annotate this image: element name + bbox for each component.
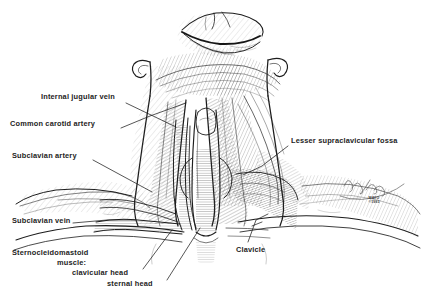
mayo-copyright-mark: MAYO ©1993 [360, 196, 388, 205]
label-sternocleidomastoid-muscle: Sternocleidomastoid [12, 248, 89, 258]
label-internal-jugular-vein: Internal jugular vein [41, 92, 115, 102]
leader-clavicular-head [143, 230, 172, 269]
leader-clavicle-tick [252, 222, 262, 226]
anatomical-figure: Internal jugular vein Common carotid art… [0, 0, 424, 307]
label-clavicle: Clavicle [236, 245, 265, 255]
label-subclavian-artery: Subclavian artery [12, 151, 77, 161]
label-lesser-supraclavicular-fossa: Lesser supraclavicular fossa [291, 136, 398, 146]
label-sternocleidomastoid-muscle-word: muscle: [57, 258, 86, 268]
label-clavicular-head: clavicular head [72, 268, 128, 278]
credit-line-year: ©1993 [360, 200, 388, 204]
label-subclavian-vein: Subclavian vein [12, 216, 71, 226]
label-sternal-head: sternal head [107, 279, 153, 289]
label-common-carotid-artery: Common carotid artery [10, 119, 95, 129]
leader-sternal-head [167, 228, 200, 280]
